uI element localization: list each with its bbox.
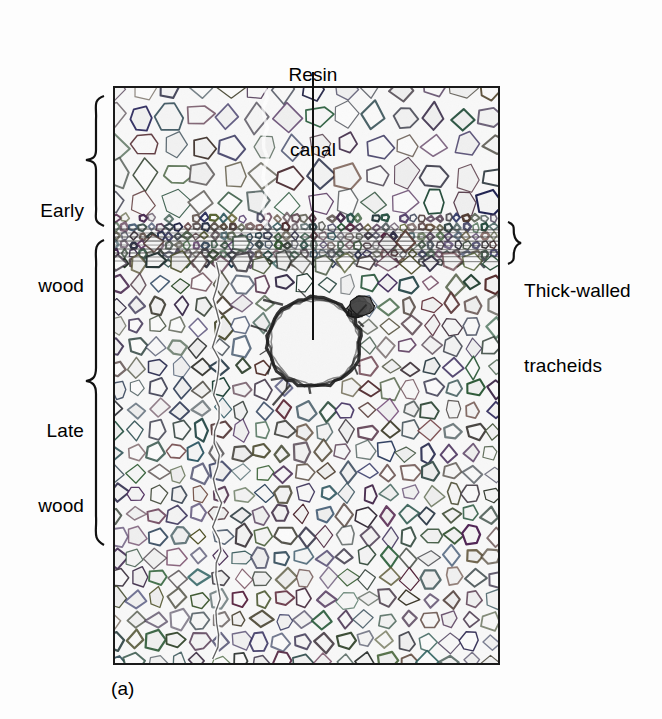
thick-walled-tracheids-label: Thick-walled tracheids xyxy=(524,228,662,428)
late-wood-brace xyxy=(86,240,104,545)
early-wood-label: Early wood xyxy=(8,148,84,348)
late-wood-label-line1: Late xyxy=(8,418,84,443)
thick-walled-tracheids-brace xyxy=(508,222,521,264)
wood-anatomy-figure: Resin canal Early wood Late wood Thick-w… xyxy=(0,0,662,719)
late-wood-label: Late wood xyxy=(8,368,84,568)
resin-canal-label: Resin canal xyxy=(249,12,377,212)
panel-caption: (a) xyxy=(111,676,135,701)
early-wood-label-line2: wood xyxy=(8,273,84,298)
thick-walled-tracheids-label-line2: tracheids xyxy=(524,353,662,378)
resin-canal-label-line2: canal xyxy=(249,137,377,162)
resin-canal-label-line1: Resin xyxy=(249,62,377,87)
thick-walled-tracheids-label-line1: Thick-walled xyxy=(524,278,662,303)
early-wood-label-line1: Early xyxy=(8,198,84,223)
late-wood-label-line2: wood xyxy=(8,493,84,518)
early-wood-brace xyxy=(86,96,104,226)
